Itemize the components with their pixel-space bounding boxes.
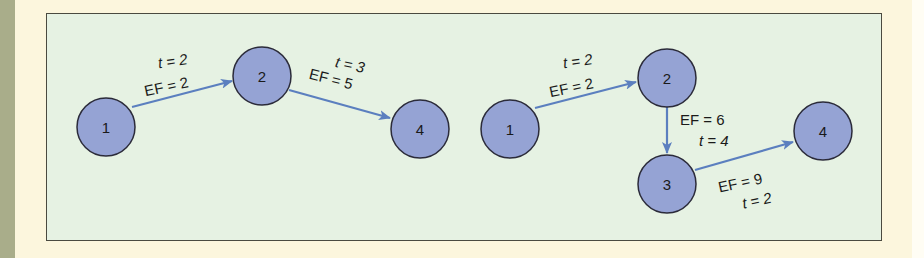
node-4: 4 (391, 100, 449, 158)
node-2-label: 2 (258, 68, 266, 85)
node-4: 4 (794, 102, 852, 160)
node-3: 3 (638, 155, 696, 213)
node-1-label: 1 (102, 119, 110, 136)
node-2: 2 (638, 49, 696, 107)
node-4-label: 4 (819, 123, 827, 140)
edge-2-4 (289, 90, 390, 118)
right-network: t = 2 EF = 2 EF = 6 t = 4 EF = 9 t = 2 1… (481, 49, 852, 213)
node-3-label: 3 (663, 176, 671, 193)
edge-2-3-ef-label: EF = 6 (680, 111, 725, 128)
edge-1-2-ef-label: EF = 2 (548, 74, 595, 100)
node-2-label: 2 (663, 70, 671, 87)
edge-3-4-t-label: t = 2 (741, 189, 774, 212)
node-4-label: 4 (416, 121, 424, 138)
edge-1-2-t-label: t = 2 (157, 50, 189, 71)
edge-2-3-t-label: t = 4 (699, 132, 729, 149)
node-1: 1 (77, 98, 135, 156)
node-2: 2 (233, 47, 291, 105)
edge-1-2-t-label: t = 2 (562, 50, 594, 71)
node-1: 1 (481, 100, 539, 158)
node-1-label: 1 (506, 121, 514, 138)
edge-1-2-ef-label: EF = 2 (143, 73, 190, 99)
left-network: t = 2 EF = 2 t = 3 EF = 5 1 2 4 (77, 47, 449, 158)
network-diagrams: t = 2 EF = 2 t = 3 EF = 5 1 2 4 t = 2 EF… (0, 0, 924, 258)
